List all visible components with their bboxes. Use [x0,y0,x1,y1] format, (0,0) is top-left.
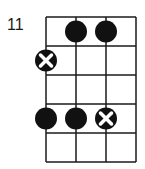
finger-dot [65,108,87,130]
muted-x-marker [35,50,57,72]
finger-dot [65,21,87,43]
chord-diagram [0,0,145,169]
muted-x-marker [95,108,117,130]
finger-dot [35,108,57,130]
fretboard-grid [46,17,136,162]
finger-dot [95,21,117,43]
